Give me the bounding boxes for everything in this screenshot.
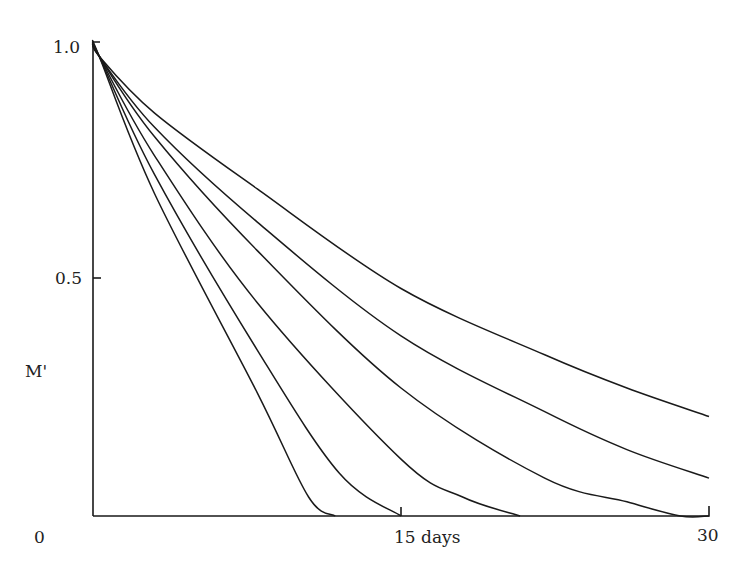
- series-line-4: [93, 42, 521, 516]
- y-tick-label-0.5: 0.5: [55, 268, 82, 288]
- x-tick-label-0: 0: [34, 527, 45, 547]
- series-line-2: [93, 42, 709, 478]
- y-axis-label: M': [25, 361, 47, 381]
- x-tick-label-15: 15 days: [394, 527, 460, 547]
- series-line-5: [93, 42, 401, 516]
- x-tick-label-30: 30: [697, 525, 719, 545]
- decay-chart: 1.0 0.5 M' 0 15 days 30: [0, 0, 749, 572]
- y-axis: [93, 42, 100, 516]
- y-tick-label-1.0: 1.0: [53, 37, 80, 57]
- curves: [93, 41, 709, 518]
